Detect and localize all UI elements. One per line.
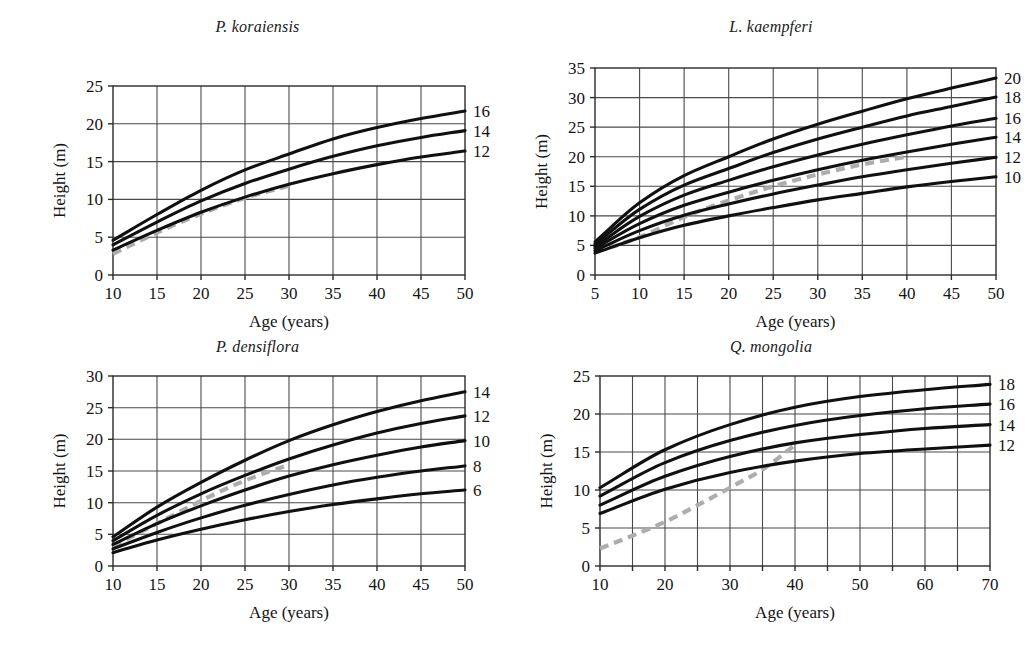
axes-frame — [595, 68, 996, 275]
si-edge-label-10: 10 — [1004, 168, 1021, 187]
y-tick-label: 10 — [568, 207, 585, 226]
y-tick-label: 0 — [95, 266, 104, 285]
si-edge-label-20: 20 — [1004, 69, 1021, 88]
y-tick-label: 10 — [86, 494, 103, 513]
x-tick-label: 15 — [149, 284, 166, 303]
tick-marks — [108, 86, 465, 280]
y-tick-label: 0 — [95, 557, 104, 576]
si-edge-label-14: 14 — [1004, 128, 1022, 147]
x-axis-title: Age (years) — [249, 312, 329, 331]
y-tick-label: 5 — [95, 525, 104, 544]
x-tick-label: 40 — [369, 284, 386, 303]
plot-area-q-mongolia: 102030405060700510152025Age (years)Heigh… — [515, 338, 1027, 654]
x-tick-label: 45 — [413, 284, 430, 303]
x-tick-label: 15 — [149, 575, 166, 594]
x-tick-label: 30 — [809, 284, 826, 303]
si-edge-label-12: 12 — [1004, 148, 1021, 167]
y-tick-label: 0 — [577, 266, 586, 285]
x-tick-label: 10 — [631, 284, 648, 303]
site-index-edge-labels: 14121086 — [473, 383, 491, 500]
x-tick-label: 10 — [592, 575, 609, 594]
site-index-figure: P. koraiensis101520253035404550051015202… — [0, 0, 1027, 654]
x-tick-label: 10 — [105, 284, 122, 303]
x-axis-title: Age (years) — [756, 312, 836, 331]
x-axis-title: Age (years) — [755, 603, 835, 622]
gridlines — [600, 376, 990, 566]
si-edge-label-14: 14 — [998, 416, 1016, 435]
x-tick-label: 20 — [657, 575, 674, 594]
site-index-edge-labels: 18161412 — [998, 375, 1016, 455]
x-tick-label: 50 — [457, 575, 474, 594]
y-tick-label: 25 — [573, 367, 590, 386]
x-tick-label: 30 — [281, 575, 298, 594]
x-tick-label: 20 — [720, 284, 737, 303]
x-tick-label: 40 — [898, 284, 915, 303]
plot-area-p-koraiensis: 1015202530354045500510152025Age (years)H… — [0, 18, 515, 328]
si-edge-label-16: 16 — [473, 102, 490, 121]
y-tick-label: 0 — [582, 557, 591, 576]
y-tick-labels: 05101520253035 — [568, 59, 585, 285]
site-index-curves — [595, 78, 996, 253]
si-edge-label-18: 18 — [998, 375, 1015, 394]
y-axis-title: Height (m) — [50, 433, 69, 508]
y-tick-label: 10 — [86, 190, 103, 209]
si-edge-label-8: 8 — [473, 457, 482, 476]
y-tick-label: 10 — [573, 481, 590, 500]
y-tick-label: 25 — [568, 118, 585, 137]
x-tick-labels: 10203040506070 — [592, 575, 999, 594]
x-tick-label: 50 — [457, 284, 474, 303]
x-tick-label: 50 — [852, 575, 869, 594]
y-tick-label: 15 — [573, 443, 590, 462]
y-tick-label: 20 — [86, 430, 103, 449]
y-tick-label: 15 — [86, 462, 103, 481]
x-tick-label: 35 — [854, 284, 871, 303]
x-tick-label: 50 — [988, 284, 1005, 303]
si-curve-18 — [595, 97, 996, 244]
tick-marks — [595, 376, 990, 571]
x-tick-label: 15 — [676, 284, 693, 303]
x-tick-label: 60 — [917, 575, 934, 594]
x-tick-label: 10 — [105, 575, 122, 594]
y-tick-label: 30 — [86, 367, 103, 386]
y-axis-title: Height (m) — [50, 143, 69, 218]
gridlines — [595, 68, 996, 275]
y-tick-label: 5 — [577, 236, 586, 255]
plot-area-l-kaempferi: 510152025303540455005101520253035Age (ye… — [515, 18, 1027, 328]
y-tick-labels: 051015202530 — [86, 367, 103, 576]
x-tick-label: 70 — [982, 575, 999, 594]
y-tick-label: 25 — [86, 77, 103, 96]
y-tick-label: 5 — [582, 519, 591, 538]
panel-l-kaempferi: L. kaempferi5101520253035404550051015202… — [515, 18, 1027, 328]
y-tick-label: 5 — [95, 228, 104, 247]
x-tick-labels: 5101520253035404550 — [591, 284, 1005, 303]
y-tick-label: 15 — [568, 177, 585, 196]
panel-p-koraiensis: P. koraiensis101520253035404550051015202… — [0, 18, 515, 328]
si-edge-label-18: 18 — [1004, 88, 1021, 107]
si-edge-label-10: 10 — [473, 432, 490, 451]
gridlines — [113, 86, 465, 275]
x-tick-label: 25 — [237, 575, 254, 594]
y-tick-label: 15 — [86, 153, 103, 172]
panel-q-mongolia: Q. mongolia102030405060700510152025Age (… — [515, 338, 1027, 654]
x-tick-label: 45 — [943, 284, 960, 303]
x-tick-label: 20 — [193, 575, 210, 594]
y-tick-label: 35 — [568, 59, 585, 78]
x-axis-title: Age (years) — [249, 603, 329, 622]
si-edge-label-12: 12 — [473, 407, 490, 426]
x-tick-label: 35 — [325, 284, 342, 303]
x-tick-label: 30 — [722, 575, 739, 594]
x-tick-label: 20 — [193, 284, 210, 303]
y-axis-title: Height (m) — [537, 433, 556, 508]
y-tick-label: 20 — [568, 148, 585, 167]
si-edge-label-14: 14 — [473, 383, 491, 402]
si-edge-label-6: 6 — [473, 481, 482, 500]
plot-area-p-densiflora: 101520253035404550051015202530Age (years… — [0, 338, 515, 654]
panel-p-densiflora: P. densiflora101520253035404550051015202… — [0, 338, 515, 654]
x-tick-label: 25 — [765, 284, 782, 303]
site-index-edge-labels: 201816141210 — [1004, 69, 1022, 187]
y-tick-label: 20 — [573, 405, 590, 424]
x-tick-labels: 101520253035404550 — [105, 284, 474, 303]
y-tick-label: 25 — [86, 399, 103, 418]
x-tick-label: 30 — [281, 284, 298, 303]
x-tick-labels: 101520253035404550 — [105, 575, 474, 594]
